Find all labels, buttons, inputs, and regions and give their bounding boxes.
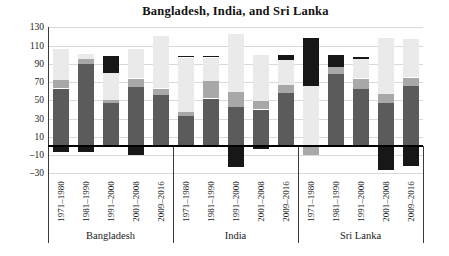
bar-segment-black [328, 55, 344, 67]
bar-segment-light-gray [53, 49, 69, 80]
y-tick-label: –10 [0, 149, 44, 161]
bar-segment-dark-gray [228, 107, 244, 146]
bar-segment-light-gray [278, 60, 294, 85]
chart-area: 1301109070503010–10–301971–19801981–1990… [0, 0, 449, 256]
x-period-label: 1991–2000 [230, 176, 241, 228]
bar-segment-light-gray [153, 36, 169, 89]
bar-segment-dark-gray [253, 110, 269, 147]
x-period-label: 2001–2008 [380, 176, 391, 228]
bar-segment-dark-gray [178, 116, 194, 146]
bar-segment-medium-gray [353, 79, 369, 89]
y-tick-label: 70 [0, 76, 44, 88]
x-period-label: 1981–1990 [330, 176, 341, 228]
bar-segment-medium-gray [203, 81, 219, 98]
x-period-label: 1991–2000 [355, 176, 366, 228]
bar-segment-black [378, 146, 394, 170]
bar-segment-light-gray [353, 59, 369, 78]
bar-segment-dark-gray [353, 89, 369, 147]
bar-segment-dark-gray [278, 93, 294, 146]
x-period-label: 1981–1990 [205, 176, 216, 228]
y-tick-label: 50 [0, 94, 44, 106]
bar-segment-medium-gray [253, 101, 269, 109]
bar-segment-dark-gray [203, 99, 219, 146]
x-period-label: 2001–2008 [255, 176, 266, 228]
x-period-label: 2009–2016 [405, 176, 416, 228]
bar-segment-dark-gray [53, 89, 69, 147]
bar-segment-medium-gray [303, 146, 319, 155]
y-axis-line [48, 27, 49, 243]
y-tick-label: 130 [0, 21, 44, 33]
y-tick-label: 30 [0, 113, 44, 125]
bar-segment-black [203, 56, 219, 58]
x-period-label: 1971–1980 [55, 176, 66, 228]
bar-segment-medium-gray [103, 100, 119, 104]
bar-segment-light-gray [303, 86, 319, 146]
separator-line [423, 146, 424, 243]
group-label: Bangladesh [48, 229, 173, 243]
bar-segment-black [228, 146, 244, 167]
group-label: India [173, 229, 298, 243]
bar-segment-medium-gray [228, 92, 244, 107]
y-tick-label: 10 [0, 131, 44, 143]
x-period-label: 2009–2016 [155, 176, 166, 228]
bar-segment-dark-gray [378, 103, 394, 146]
gridline [48, 173, 423, 174]
x-period-label: 1971–1980 [305, 176, 316, 228]
bar-segment-light-gray [403, 39, 419, 77]
figure-chart: Bangladesh, India, and Sri Lanka 1301109… [0, 0, 449, 256]
bar-segment-dark-gray [128, 87, 144, 146]
bar-segment-medium-gray [328, 67, 344, 74]
x-period-label: 1991–2000 [105, 176, 116, 228]
y-tick-label: –30 [0, 167, 44, 179]
bar-segment-light-gray [228, 34, 244, 92]
bar-segment-medium-gray [378, 94, 394, 103]
x-period-label: 1981–1990 [80, 176, 91, 228]
bar-segment-black [178, 56, 194, 58]
bar-segment-black [278, 55, 294, 61]
bar-segment-light-gray [378, 38, 394, 94]
bar-segment-dark-gray [403, 86, 419, 146]
y-tick-label: 90 [0, 58, 44, 70]
bar-segment-dark-gray [103, 103, 119, 146]
bar-segment-light-gray [178, 58, 194, 113]
gridline [48, 27, 423, 28]
bar-segment-medium-gray [153, 89, 169, 95]
bar-segment-medium-gray [78, 59, 94, 64]
bar-segment-light-gray [203, 58, 219, 82]
bar-segment-black [128, 146, 144, 155]
bar-segment-light-gray [253, 55, 269, 102]
bar-segment-light-gray [103, 73, 119, 100]
bar-segment-black [303, 38, 319, 86]
x-period-label: 1971–1980 [180, 176, 191, 228]
bar-segment-medium-gray [403, 78, 419, 86]
bar-segment-medium-gray [278, 85, 294, 93]
bar-segment-medium-gray [53, 80, 69, 88]
group-label: Sri Lanka [298, 229, 423, 243]
x-axis-zero-line [48, 145, 423, 147]
bar-segment-black [403, 146, 419, 166]
bar-segment-dark-gray [328, 74, 344, 146]
x-period-label: 2001–2008 [130, 176, 141, 228]
bar-segment-black [103, 56, 119, 73]
bar-segment-light-gray [78, 54, 94, 60]
x-period-label: 2009–2016 [280, 176, 291, 228]
bar-segment-dark-gray [78, 64, 94, 146]
bar-segment-medium-gray [128, 79, 144, 87]
bar-segment-dark-gray [153, 95, 169, 146]
bar-segment-black [353, 57, 369, 60]
y-tick-label: 110 [0, 40, 44, 52]
bar-segment-light-gray [128, 49, 144, 78]
bar-segment-medium-gray [178, 112, 194, 116]
